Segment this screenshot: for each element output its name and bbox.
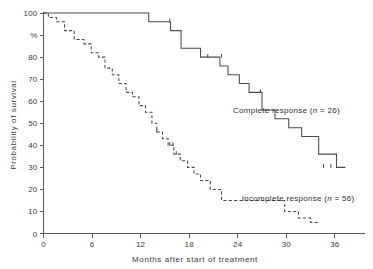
series-container: [44, 13, 346, 222]
x-tick-label: 24: [233, 240, 243, 249]
y-tick-label: 50: [28, 119, 38, 128]
y-axis-title: Probability of survival: [9, 80, 18, 169]
y-tick-label: 20: [28, 185, 38, 194]
x-axis: 061218243036: [41, 234, 365, 249]
x-tick-label: 6: [90, 240, 95, 249]
series-label-complete-response: Complete response (n = 26): [233, 106, 340, 115]
y-tick-label: 0: [33, 230, 38, 239]
series-label-incomplete-response: Incomplete response (n = 56): [242, 194, 355, 203]
y-tick-label: 30: [28, 163, 38, 172]
series-path-complete-response: [44, 13, 346, 167]
y-tick-label: 80: [28, 53, 38, 62]
km-plot-svg: 01020304050607080%100 061218243036 Compl…: [0, 0, 373, 269]
x-tick-label: 30: [282, 240, 292, 249]
survival-chart: 01020304050607080%100 061218243036 Compl…: [0, 0, 373, 269]
y-tick-label: %: [30, 31, 37, 40]
y-tick-label: 100: [24, 9, 38, 18]
x-axis-title: Months after start of treatment: [132, 255, 258, 264]
x-tick-label: 18: [185, 240, 195, 249]
y-tick-label: 70: [28, 75, 38, 84]
y-tick-label: 60: [28, 97, 38, 106]
y-tick-label: 40: [28, 141, 38, 150]
x-tick-label: 36: [330, 240, 340, 249]
x-tick-label: 0: [41, 240, 46, 249]
y-tick-label: 10: [28, 207, 38, 216]
x-tick-label: 12: [136, 240, 146, 249]
y-axis: 01020304050607080%100: [24, 9, 44, 239]
